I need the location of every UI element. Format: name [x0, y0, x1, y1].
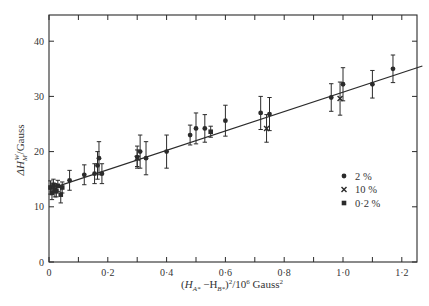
y-tick-label: 40 [34, 36, 44, 47]
circle-marker [341, 82, 346, 87]
x-tick-label: 0·6 [219, 267, 232, 278]
series-square [48, 126, 213, 203]
chart: 00·20·40·60·81·01·2010203040 2 %10 %0·2 … [0, 0, 429, 306]
circle-marker [342, 174, 347, 179]
circle-marker [267, 112, 272, 117]
y-tick-label: 20 [34, 146, 44, 157]
square-marker [342, 201, 347, 206]
circle-marker [164, 149, 169, 154]
legend-label: 2 % [355, 171, 372, 182]
y-tick-label: 10 [34, 201, 44, 212]
square-marker [208, 129, 213, 134]
tick-labels: 00·20·40·60·81·01·2010203040 [34, 36, 408, 278]
square-marker [56, 184, 61, 189]
circle-marker [100, 171, 105, 176]
circle-marker [97, 156, 102, 161]
plot-frame [49, 15, 417, 262]
x-tick-label: 0 [47, 267, 52, 278]
axis-ticks [49, 15, 417, 262]
legend-label: 0·2 % [355, 198, 381, 209]
x-tick-label: 1·0 [336, 267, 349, 278]
x-axis-title: (HA* −HB*)2/106 Gauss2 [181, 278, 283, 293]
x-tick-label: 0·4 [160, 267, 173, 278]
y-tick-label: 0 [39, 257, 44, 268]
circle-marker [370, 82, 375, 87]
legend-label: 10 % [355, 184, 377, 195]
circle-marker [67, 178, 72, 183]
x-tick-label: 1·2 [395, 267, 408, 278]
legend: 2 %10 %0·2 % [342, 171, 381, 209]
x-tick-label: 0·2 [101, 267, 114, 278]
circle-marker [144, 156, 149, 161]
x-tick-label: 0·8 [278, 267, 291, 278]
circle-marker [202, 126, 207, 131]
circle-marker [194, 126, 199, 131]
circle-marker [258, 111, 263, 116]
series-circle [67, 55, 395, 190]
data-points [48, 55, 395, 203]
circle-marker [391, 66, 396, 71]
y-tick-label: 30 [34, 91, 44, 102]
circle-marker [188, 133, 193, 138]
square-marker [60, 185, 65, 190]
circle-marker [329, 95, 334, 100]
circle-marker [82, 172, 87, 177]
plot-border [49, 15, 417, 262]
circle-marker [223, 118, 228, 123]
y-axis-title: ΔHMW/Gauss [13, 124, 29, 176]
circle-marker [92, 171, 97, 176]
